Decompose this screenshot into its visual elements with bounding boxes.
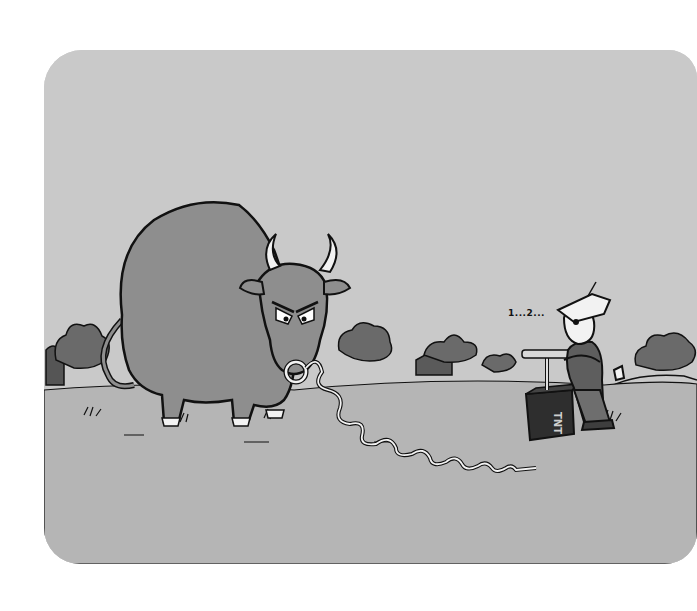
tnt-label: TNT <box>552 412 563 434</box>
speech-counting-text: 1...2... <box>508 308 545 318</box>
farmer-boots <box>582 420 614 430</box>
cartoon-panel: TNT 1...2... <box>44 50 697 564</box>
cartoon-illustration: TNT <box>44 50 697 564</box>
